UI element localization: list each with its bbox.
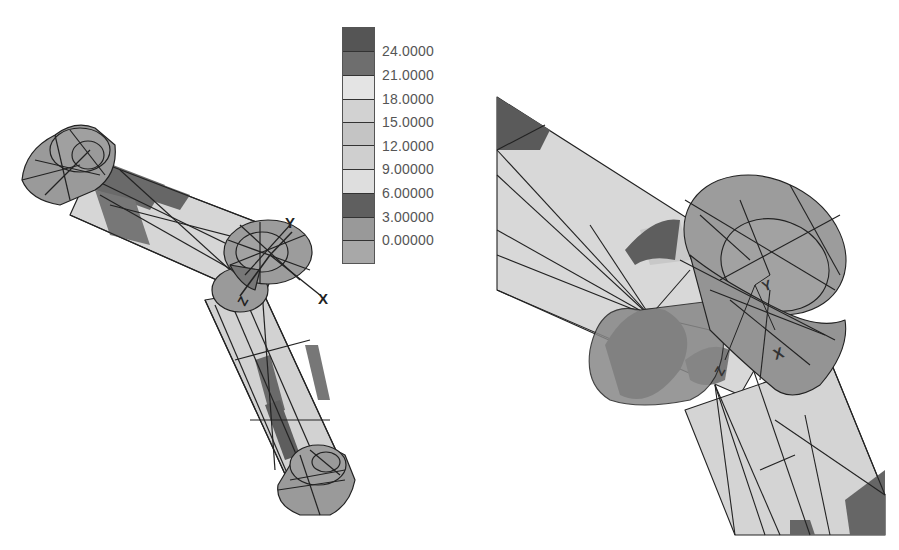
legend-label: 24.0000 <box>382 43 434 59</box>
legend-color-bar <box>342 27 375 264</box>
legend-label: 21.0000 <box>382 67 434 83</box>
legend-label: 12.0000 <box>382 138 434 154</box>
joint-closeup-drawing: Y X Z <box>490 0 899 550</box>
axis-label-x: X <box>318 290 328 307</box>
assembly-drawing: Y X Z <box>0 0 360 550</box>
full-assembly-view: Y X Z <box>0 0 360 550</box>
legend-label: 0.00000 <box>382 232 434 248</box>
legend-band-3 <box>343 76 374 100</box>
legend-band-6 <box>343 146 374 170</box>
legend-label: 15.0000 <box>382 114 434 130</box>
legend-band-5 <box>343 123 374 146</box>
legend-label: 9.00000 <box>382 161 434 177</box>
legend-band-2 <box>343 52 374 76</box>
legend-band-4 <box>343 100 374 123</box>
joint-closeup-view: Y X Z <box>490 0 899 550</box>
legend-label: 3.00000 <box>382 209 434 225</box>
legend-band-10 <box>343 241 374 263</box>
axis-label-y: Y <box>285 214 295 231</box>
legend-band-8 <box>343 194 374 218</box>
legend-band-1 <box>343 28 374 52</box>
legend-label: 18.0000 <box>382 91 434 107</box>
legend-band-9 <box>343 218 374 241</box>
contour-legend: 24.0000 21.0000 18.0000 15.0000 12.0000 … <box>342 27 472 267</box>
legend-band-7 <box>343 170 374 194</box>
legend-label: 6.00000 <box>382 185 434 201</box>
